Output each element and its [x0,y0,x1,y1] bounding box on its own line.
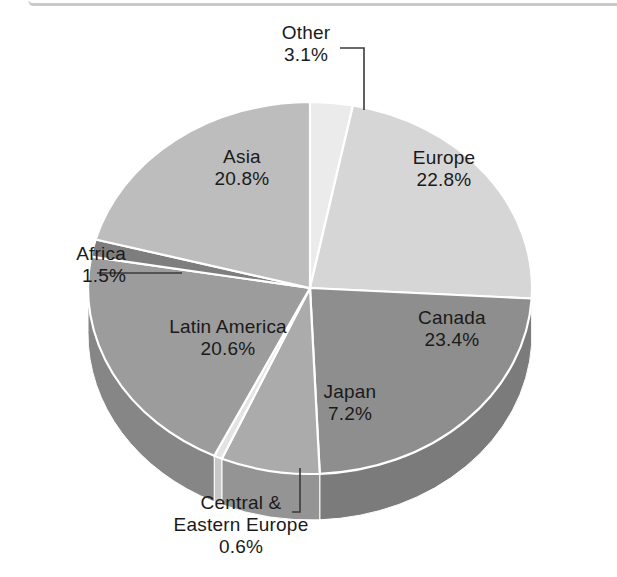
pie-geometry [88,102,532,520]
pie-chart-figure: Other 3.1% Europe 22.8% Canada 23.4% Jap… [0,0,617,577]
pie-slice-side-central-eastern-europe [214,456,222,505]
pie-slice-canada[interactable] [310,288,532,474]
pie-chart-canvas [0,0,617,577]
leader-line-other [340,48,364,110]
